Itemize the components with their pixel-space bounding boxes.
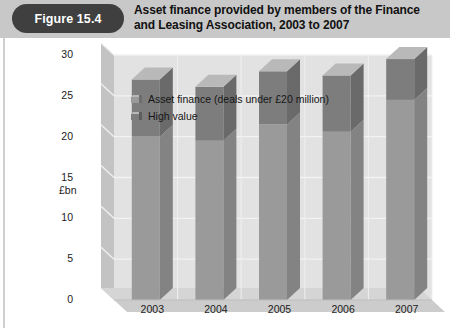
legend-item-asset-finance: Asset finance (deals under £20 million) (131, 91, 329, 106)
bar-segment-asset-finance (323, 132, 351, 300)
chart-frame: Asset finance (deals under £20 million) … (3, 38, 447, 328)
bar-segment-asset-finance (132, 137, 160, 300)
chart-legend: Asset finance (deals under £20 million) … (131, 91, 329, 125)
x-axis-tick-label: 2003 (130, 303, 174, 315)
bar-segment-asset-finance (195, 141, 223, 300)
legend-swatch-asset-finance-icon (131, 95, 142, 103)
figure-title: Asset finance provided by members of the… (134, 3, 444, 32)
bar-segment-asset-finance (386, 100, 414, 300)
x-axis-tick-label: 2007 (385, 303, 429, 315)
y-axis-tick-label: 0 (47, 293, 73, 305)
y-axis-tick-label: 20 (47, 130, 73, 142)
bar-segment-asset-finance (259, 124, 287, 300)
y-axis-title: £bn (59, 184, 77, 196)
bar-segment-high-value (386, 59, 414, 100)
x-axis-tick-label: 2006 (321, 303, 365, 315)
x-axis-tick-label: 2004 (194, 303, 238, 315)
bar-side-asset-finance (160, 125, 173, 300)
bar-side-asset-finance (414, 88, 427, 300)
bar-side-asset-finance (351, 120, 364, 300)
bar-side-high-value (351, 63, 364, 131)
y-axis-tick-label: 25 (47, 89, 73, 101)
y-axis-tick-label: 10 (47, 211, 73, 223)
bar-side-asset-finance (223, 129, 236, 300)
figure-number-pill: Figure 15.4 (12, 4, 124, 33)
figure-number-label: Figure 15.4 (34, 12, 101, 26)
y-axis-tick-label: 30 (47, 48, 73, 60)
legend-label-asset-finance: Asset finance (deals under £20 million) (148, 93, 329, 105)
legend-label-high-value: High value (148, 110, 198, 122)
legend-item-high-value: High value (131, 108, 329, 123)
y-axis-tick-label: 15 (47, 171, 73, 183)
bar-chart (5, 38, 449, 328)
legend-swatch-high-value-icon (131, 112, 142, 120)
x-axis-tick-label: 2005 (258, 303, 302, 315)
y-axis-tick-label: 5 (47, 252, 73, 264)
figure-container: Figure 15.4 Asset finance provided by me… (0, 0, 450, 331)
bar-side-asset-finance (287, 112, 300, 300)
